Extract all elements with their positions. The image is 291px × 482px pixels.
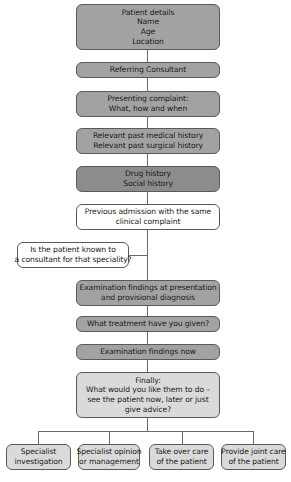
step-text: of the patient <box>156 457 206 467</box>
step-text: see the patient now, later or just <box>87 395 208 405</box>
step-text: Previous admission with the same <box>85 207 211 217</box>
step-presenting-complaint: Presenting complaint: What, how and when <box>76 91 220 117</box>
step-text: investigation <box>15 457 63 467</box>
step-text: What treatment have you given? <box>87 319 209 329</box>
outcome-joint-care: Provide joint care of the patient <box>221 444 286 470</box>
step-text: Age <box>141 27 155 37</box>
step-exam-findings-presentation: Examination findings at presentation and… <box>76 280 220 306</box>
step-text: clinical complaint <box>116 217 181 227</box>
outcome-specialist-investigation: Specialist investigation <box>6 444 71 470</box>
step-treatment-given: What treatment have you given? <box>76 316 220 332</box>
outcome-take-over-care: Take over care of the patient <box>149 444 214 470</box>
step-text: Examination findings at presentation <box>80 283 217 293</box>
step-text: Take over care <box>155 447 209 457</box>
step-text: Relevant past medical history <box>93 131 203 141</box>
step-text: and provisional diagnosis <box>101 293 195 303</box>
side-question-known-consultant: Is the patient known to a consultant for… <box>17 242 129 268</box>
connector-outcome-2 <box>109 431 110 444</box>
step-text: Location <box>132 37 163 47</box>
step-text: Relevant past surgical history <box>93 141 203 151</box>
step-text: or management <box>79 457 139 467</box>
step-text: Social history <box>123 179 173 189</box>
step-patient-details: Patient details Name Age Location <box>76 4 220 50</box>
step-text: Is the patient known to <box>30 245 116 255</box>
step-exam-findings-now: Examination findings now <box>76 344 220 360</box>
connector-outcome-3 <box>182 431 183 444</box>
step-text: Name <box>137 17 159 27</box>
step-text: Referring Consultant <box>110 65 186 75</box>
connector-side-question <box>129 255 147 256</box>
step-text: Specialist <box>21 447 56 457</box>
step-drug-social-history: Drug history Social history <box>76 166 220 192</box>
step-text: Finally: <box>135 376 160 386</box>
step-text: Examination findings now <box>100 347 196 357</box>
step-text: Drug history <box>125 169 171 179</box>
step-text: Specialist opinion <box>77 447 142 457</box>
step-past-history: Relevant past medical history Relevant p… <box>76 128 220 154</box>
step-referring-consultant: Referring Consultant <box>76 62 220 78</box>
step-text: Presenting complaint: <box>108 94 189 104</box>
connector-outcome-1 <box>38 431 39 444</box>
step-text: of the patient <box>228 457 278 467</box>
step-text: What, how and when <box>109 104 187 114</box>
step-previous-admission: Previous admission with the same clinica… <box>76 204 220 230</box>
connector-outcome-4 <box>253 431 254 444</box>
step-text: What would you like them to do – <box>86 385 210 395</box>
step-text: Provide joint care <box>221 447 285 457</box>
referral-flowchart: Patient details Name Age Location Referr… <box>0 0 291 482</box>
step-text: a consultant for that speciality? <box>15 255 132 265</box>
step-text: give advice? <box>125 405 171 415</box>
step-finally-request: Finally: What would you like them to do … <box>76 372 220 418</box>
connector-outcome-bus <box>38 431 254 432</box>
step-text: Patient details <box>122 8 175 18</box>
outcome-specialist-opinion: Specialist opinion or management <box>78 444 140 470</box>
